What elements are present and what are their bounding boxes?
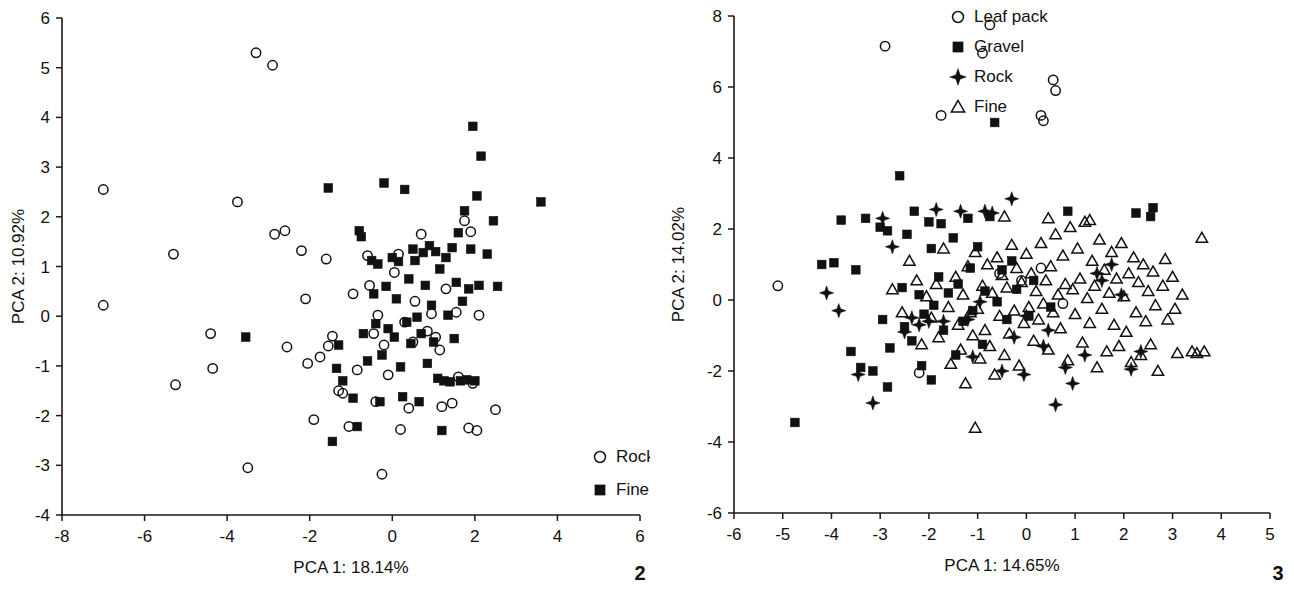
four-point-star-icon — [885, 240, 899, 254]
legend-label: Gravel — [974, 37, 1024, 56]
open-triangle-icon — [1116, 238, 1127, 248]
filled-square-icon — [357, 232, 366, 241]
filled-square-icon — [446, 377, 455, 386]
y-axis-title: PCA 2: 10.92% — [9, 209, 28, 324]
filled-square-icon — [460, 207, 469, 216]
open-circle-icon — [404, 403, 413, 412]
filled-square-icon — [861, 214, 870, 223]
open-triangle-icon — [1150, 300, 1161, 310]
open-triangle-icon — [1084, 317, 1095, 327]
legend-filled-square-icon — [595, 485, 605, 495]
filled-square-icon — [452, 278, 461, 287]
open-triangle-icon — [1162, 314, 1173, 324]
open-triangle-icon — [1060, 278, 1071, 288]
y-axis-tick-label: 6 — [713, 78, 722, 97]
open-circle-icon — [1058, 299, 1067, 308]
filled-square-icon — [1063, 207, 1072, 216]
legend-open-triangle-icon — [951, 100, 964, 112]
y-axis-tick-label: -4 — [35, 506, 50, 525]
open-circle-icon — [466, 227, 475, 236]
filled-square-icon — [417, 329, 426, 338]
filled-square-icon — [477, 152, 486, 161]
legend-label: Rock — [616, 447, 650, 466]
filled-square-icon — [415, 397, 424, 406]
y-axis-tick-label: -2 — [35, 407, 50, 426]
filled-square-icon — [369, 290, 378, 299]
open-circle-icon — [206, 329, 215, 338]
y-axis-tick-label: 0 — [41, 307, 50, 326]
open-triangle-icon — [1186, 346, 1197, 356]
open-triangle-icon — [938, 243, 949, 253]
open-circle-icon — [379, 340, 388, 349]
open-triangle-icon — [1069, 309, 1080, 319]
open-triangle-icon — [1101, 346, 1112, 356]
x-axis-tick-label: 0 — [388, 527, 397, 546]
four-point-star-icon — [1049, 398, 1063, 412]
filled-square-icon — [442, 253, 451, 262]
filled-square-icon — [448, 243, 457, 252]
open-circle-icon — [208, 364, 217, 373]
filled-square-icon — [409, 245, 418, 254]
open-triangle-icon — [911, 275, 922, 285]
legend-four-point-star-icon — [950, 69, 966, 85]
open-triangle-icon — [1050, 229, 1061, 239]
filled-square-icon — [869, 367, 878, 376]
open-circle-icon — [309, 415, 318, 424]
open-triangle-icon — [1152, 365, 1163, 375]
filled-square-icon — [435, 265, 444, 274]
open-triangle-icon — [916, 339, 927, 349]
open-circle-icon — [936, 111, 945, 120]
open-triangle-icon — [1045, 261, 1056, 271]
x-axis-tick-label: -6 — [137, 527, 152, 546]
x-axis-tick-label: 0 — [1022, 525, 1031, 544]
series-fine — [241, 122, 545, 446]
open-triangle-icon — [1065, 222, 1076, 232]
four-point-star-icon — [820, 286, 834, 300]
filled-square-icon — [398, 392, 407, 401]
open-triangle-icon — [979, 325, 990, 335]
open-circle-icon — [324, 341, 333, 350]
open-triangle-icon — [1057, 250, 1068, 260]
open-triangle-icon — [1001, 282, 1012, 292]
four-point-star-icon — [995, 364, 1009, 378]
filled-square-icon — [429, 338, 438, 347]
open-triangle-icon — [904, 255, 915, 265]
x-axis-tick-label: -8 — [54, 527, 69, 546]
filled-square-icon — [466, 245, 475, 254]
filled-square-icon — [910, 207, 919, 216]
filled-square-icon — [384, 324, 393, 333]
filled-square-icon — [371, 319, 380, 328]
open-circle-icon — [441, 284, 450, 293]
open-triangle-icon — [896, 307, 907, 317]
x-axis-tick-label: -2 — [302, 527, 317, 546]
open-circle-icon — [396, 425, 405, 434]
four-point-star-icon — [1005, 192, 1019, 206]
open-circle-icon — [280, 226, 289, 235]
filled-square-icon — [468, 122, 477, 131]
filled-square-icon — [462, 375, 471, 384]
open-circle-icon — [427, 309, 436, 318]
y-axis-tick-label: 4 — [41, 108, 50, 127]
open-circle-icon — [437, 402, 446, 411]
filled-square-icon — [473, 192, 482, 201]
filled-square-icon — [431, 247, 440, 256]
filled-square-icon — [993, 297, 1002, 306]
pca-panel-3: -6-5-4-3-2-1012345-6-4-202468PCA 1: 14.6… — [650, 0, 1294, 591]
y-axis-tick-label: -3 — [35, 456, 50, 475]
filled-square-icon — [328, 437, 337, 446]
filled-square-icon — [1149, 203, 1158, 212]
four-point-star-icon — [912, 318, 926, 332]
open-triangle-icon — [1196, 232, 1207, 242]
x-axis-tick-label: -4 — [824, 525, 839, 544]
y-axis-tick-label: -6 — [707, 504, 722, 523]
four-point-star-icon — [866, 396, 880, 410]
filled-square-icon — [404, 275, 413, 284]
four-point-star-icon — [1066, 376, 1080, 390]
open-triangle-icon — [1040, 275, 1051, 285]
filled-square-icon — [421, 281, 430, 290]
filled-square-icon — [334, 341, 343, 350]
legend-label: Fine — [974, 97, 1007, 116]
filled-square-icon — [380, 179, 389, 188]
open-circle-icon — [251, 48, 260, 57]
filled-square-icon — [378, 351, 387, 360]
